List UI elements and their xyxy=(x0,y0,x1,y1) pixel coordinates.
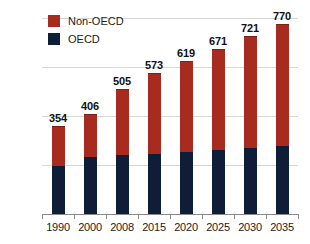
bar-value-label: 573 xyxy=(145,59,163,71)
legend-swatch-icon-oecd xyxy=(48,33,60,45)
x-axis-label: 2030 xyxy=(234,221,266,233)
bar-segment-oecd[interactable] xyxy=(148,154,161,215)
legend-label-non-oecd: Non-OECD xyxy=(68,15,124,27)
x-axis-label: 2020 xyxy=(170,221,202,233)
x-axis-ticks xyxy=(42,214,298,219)
bar-stack[interactable]: 770 xyxy=(276,24,289,214)
bar-value-label: 721 xyxy=(241,22,259,34)
legend-label-oecd: OECD xyxy=(68,33,100,45)
bar-segment-non-oecd[interactable] xyxy=(148,73,161,154)
x-axis-tick xyxy=(106,214,107,219)
bar-segment-non-oecd[interactable] xyxy=(212,49,225,150)
bar-segment-non-oecd[interactable] xyxy=(84,114,97,158)
bar-value-label: 619 xyxy=(177,47,195,59)
bar-segment-oecd[interactable] xyxy=(180,152,193,214)
x-axis-label: 2025 xyxy=(202,221,234,233)
bar-stack[interactable]: 406 xyxy=(84,114,97,214)
bar-group[interactable]: 770 xyxy=(266,18,298,214)
bar-group[interactable]: 721 xyxy=(234,18,266,214)
bar-value-label: 671 xyxy=(209,35,227,47)
x-axis-tick xyxy=(42,214,43,219)
bar-stack[interactable]: 505 xyxy=(116,89,129,214)
bar-segment-oecd[interactable] xyxy=(276,146,289,214)
bar-segment-oecd[interactable] xyxy=(84,157,97,214)
x-axis-tick xyxy=(74,214,75,219)
bar-stack[interactable]: 671 xyxy=(212,49,225,214)
bar-value-label: 406 xyxy=(81,100,99,112)
bar-segment-non-oecd[interactable] xyxy=(180,61,193,152)
bar-value-label: 770 xyxy=(273,10,291,22)
x-axis-tick xyxy=(202,214,203,219)
bar-segment-non-oecd[interactable] xyxy=(52,126,65,166)
bar-group[interactable]: 671 xyxy=(202,18,234,214)
legend-swatch-icon-non-oecd xyxy=(48,15,60,27)
bar-segment-non-oecd[interactable] xyxy=(276,24,289,146)
x-axis-label: 2035 xyxy=(266,221,298,233)
bar-stack[interactable]: 619 xyxy=(180,61,193,214)
x-axis-tick xyxy=(170,214,171,219)
x-axis-tick xyxy=(138,214,139,219)
x-axis-tick xyxy=(234,214,235,219)
x-axis-label: 2000 xyxy=(74,221,106,233)
legend-item-oecd[interactable]: OECD xyxy=(48,33,124,45)
bar-stack[interactable]: 721 xyxy=(244,36,257,214)
bar-segment-non-oecd[interactable] xyxy=(244,36,257,147)
bar-value-label: 354 xyxy=(49,112,67,124)
bar-value-label: 505 xyxy=(113,75,131,87)
bar-segment-oecd[interactable] xyxy=(116,155,129,214)
bar-segment-oecd[interactable] xyxy=(212,150,225,214)
chart-legend: Non-OECD OECD xyxy=(48,15,124,51)
bar-segment-oecd[interactable] xyxy=(52,166,65,214)
bar-stack[interactable]: 573 xyxy=(148,73,161,214)
legend-item-non-oecd[interactable]: Non-OECD xyxy=(48,15,124,27)
x-axis-tick xyxy=(298,214,299,219)
x-axis-label: 1990 xyxy=(42,221,74,233)
bar-segment-non-oecd[interactable] xyxy=(116,89,129,155)
bar-stack[interactable]: 354 xyxy=(52,126,65,214)
bar-group[interactable]: 573 xyxy=(138,18,170,214)
bar-segment-oecd[interactable] xyxy=(244,148,257,214)
x-axis-label: 2015 xyxy=(138,221,170,233)
bar-group[interactable]: 619 xyxy=(170,18,202,214)
x-axis-label: 2008 xyxy=(106,221,138,233)
x-axis-tick xyxy=(266,214,267,219)
stacked-bar-chart: 800 600 400 200 0 3544065055736196717217… xyxy=(0,0,310,244)
x-axis-labels: 19902000200820152020202520302035 xyxy=(42,221,298,233)
